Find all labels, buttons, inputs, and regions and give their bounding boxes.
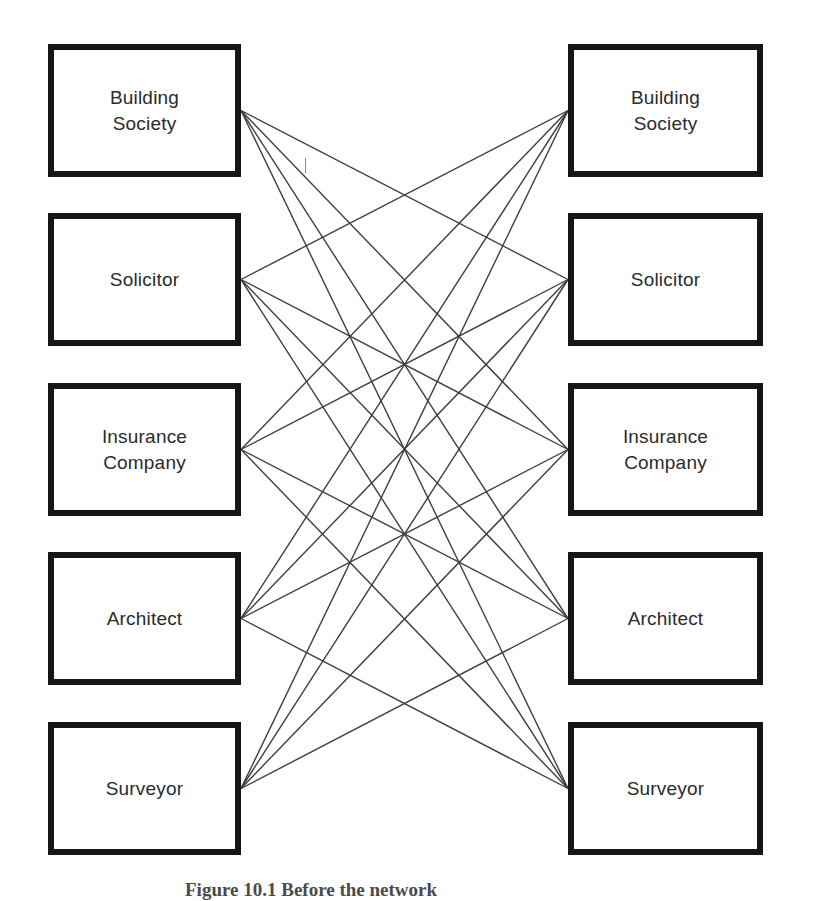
connection-line-3-2 [241,450,568,619]
connection-line-1-4 [241,280,568,789]
connection-line-3-0 [241,111,568,619]
box-right-architect: Architect [568,552,763,685]
connection-line-0-1 [241,111,568,280]
connection-line-1-2 [241,280,568,450]
connection-line-4-0 [241,111,568,789]
figure-caption: Figure 10.1 Before the network [185,879,645,901]
connection-line-0-2 [241,111,568,450]
box-label-right-building-society: Building Society [601,85,731,136]
box-left-building-society: Building Society [48,44,241,177]
box-left-solicitor: Solicitor [48,213,241,346]
box-right-solicitor: Solicitor [568,213,763,346]
box-label-left-solicitor: Solicitor [110,267,179,293]
box-label-right-solicitor: Solicitor [631,267,700,293]
box-label-left-surveyor: Surveyor [106,776,184,802]
connection-line-1-3 [241,280,568,619]
connection-line-2-4 [241,450,568,789]
connection-line-4-2 [241,450,568,789]
connection-line-3-4 [241,619,568,789]
box-right-surveyor: Surveyor [568,722,763,855]
connection-line-2-0 [241,111,568,450]
box-label-left-building-society: Building Society [80,85,210,136]
connection-line-2-1 [241,280,568,450]
connection-line-2-3 [241,450,568,619]
box-left-surveyor: Surveyor [48,722,241,855]
connection-line-3-1 [241,280,568,619]
box-right-building-society: Building Society [568,44,763,177]
box-label-right-insurance-company: Insurance Company [601,424,731,475]
stray-mark [305,158,306,173]
box-label-right-architect: Architect [628,606,704,632]
connection-line-1-0 [241,111,568,280]
box-left-architect: Architect [48,552,241,685]
connection-line-4-3 [241,619,568,789]
box-label-left-insurance-company: Insurance Company [80,424,210,475]
box-label-left-architect: Architect [107,606,183,632]
connection-line-0-4 [241,111,568,789]
box-label-right-surveyor: Surveyor [627,776,705,802]
connection-line-0-3 [241,111,568,619]
connection-line-4-1 [241,280,568,789]
box-right-insurance-company: Insurance Company [568,383,763,516]
box-left-insurance-company: Insurance Company [48,383,241,516]
